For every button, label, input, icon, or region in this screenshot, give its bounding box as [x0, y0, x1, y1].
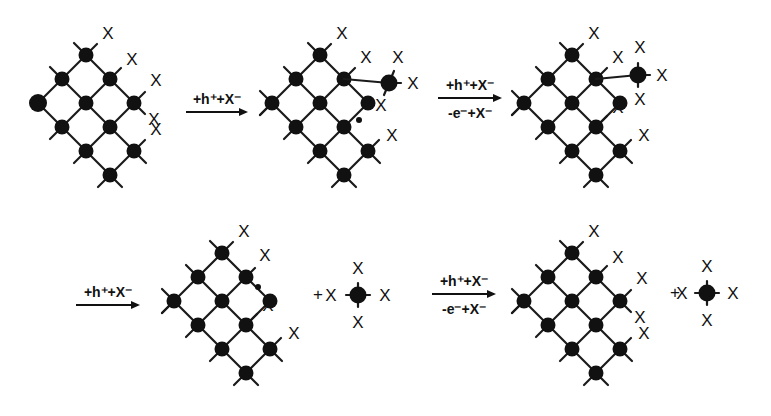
atom-node: [589, 366, 604, 381]
x-substituent-label: X: [288, 324, 299, 343]
x-substituent-label: X: [701, 311, 712, 330]
x-substituent-label: X: [150, 71, 161, 90]
stage-1-lattice: XXXXX: [29, 24, 162, 187]
x-substituent-label: X: [336, 24, 347, 43]
atom-node: [517, 96, 532, 111]
atom-node: [167, 294, 182, 309]
atom-node: [517, 294, 532, 309]
atom-node: [613, 144, 628, 159]
atom-node: [350, 287, 367, 304]
x-substituent-label: X: [126, 50, 137, 69]
x-substituent-label: X: [386, 126, 397, 145]
atom-node: [613, 342, 628, 357]
atom-node: [289, 72, 304, 87]
atom-node: [289, 120, 304, 135]
atom-node: [589, 318, 604, 333]
atom-node: [541, 318, 556, 333]
x-substituent-label: X: [636, 269, 647, 288]
atom-node: [55, 72, 70, 87]
x-substituent-label: X: [701, 257, 712, 276]
stage-5-lattice: XXXXX: [512, 222, 650, 385]
atom-node: [541, 270, 556, 285]
atom-node: [127, 144, 142, 159]
atom-node: [215, 294, 230, 309]
x-substituent-label: X: [150, 120, 161, 139]
atom-node: [79, 96, 94, 111]
atom-node: [239, 366, 254, 381]
atom-node: [191, 270, 206, 285]
radical-dot-icon: [255, 284, 261, 290]
atom-node: [79, 48, 94, 63]
x-substituent-label: X: [259, 246, 270, 265]
x-substituent-label: X: [102, 24, 113, 43]
atom-node: [613, 96, 628, 111]
atom-node: [103, 168, 118, 183]
atom-node: [313, 48, 328, 63]
atom-node: [565, 246, 580, 261]
arrow-2-bottom-label: -e⁻+X⁻: [448, 105, 492, 121]
atom-node: [55, 120, 70, 135]
reaction-diagram-canvas: XXXXX+h⁺+X⁻XXXXXX+h⁺+X⁻-e⁻+X⁻XXXXXXX+h⁺+…: [0, 0, 771, 416]
atom-node: [699, 285, 716, 302]
atom-node: [381, 75, 398, 92]
atom-node: [103, 120, 118, 135]
x-substituent-label: X: [379, 286, 390, 305]
atom-node: [265, 96, 280, 111]
arrow-2: +h⁺+X⁻-e⁻+X⁻: [438, 77, 502, 121]
stage-4-mx4-product: XXXX: [325, 259, 390, 332]
atom-node: [215, 342, 230, 357]
x-substituent-label: X: [407, 74, 418, 93]
x-substituent-label: X: [638, 126, 649, 145]
atom-node: [613, 294, 628, 309]
atom-node: [337, 168, 352, 183]
atom-node: [565, 48, 580, 63]
arrow-4: +h⁺+X⁻-e⁻+X⁻: [432, 273, 496, 317]
x-substituent-label: X: [634, 90, 645, 109]
x-substituent-label: X: [352, 259, 363, 278]
x-substituent-label: X: [238, 222, 249, 241]
x-substituent-label: X: [352, 313, 363, 332]
atom-node: [541, 120, 556, 135]
stage-5-mx4-product: XXXX: [676, 257, 738, 330]
plus-sign: +: [313, 285, 323, 304]
stage-4-lattice: XXXX: [162, 222, 300, 385]
atom-node: [29, 94, 47, 112]
arrow-3-top-label: +h⁺+X⁻: [84, 284, 132, 300]
atom-node: [239, 318, 254, 333]
atom-node: [313, 144, 328, 159]
atom-node: [541, 72, 556, 87]
x-substituent-label: X: [612, 248, 623, 267]
atom-node: [215, 246, 230, 261]
x-substituent-label: X: [656, 66, 667, 85]
stage-2-lattice: XXXXXX: [260, 24, 419, 187]
arrow-4-bottom-label: -e⁻+X⁻: [442, 301, 486, 317]
atom-node: [127, 96, 142, 111]
arrow-4-top-label: +h⁺+X⁻: [440, 273, 488, 289]
x-substituent-label: X: [612, 48, 623, 67]
x-substituent-label: X: [727, 284, 738, 303]
atom-node: [103, 72, 118, 87]
atom-node: [191, 318, 206, 333]
x-substituent-label: X: [392, 48, 403, 67]
atom-node: [361, 144, 376, 159]
atom-node: [239, 270, 254, 285]
arrow-3: +h⁺+X⁻: [76, 284, 140, 309]
atom-node: [79, 144, 94, 159]
atom-node: [565, 96, 580, 111]
atom-node: [565, 144, 580, 159]
arrow-2-top-label: +h⁺+X⁻: [446, 77, 494, 93]
x-substituent-label: X: [638, 324, 649, 343]
atom-node: [263, 294, 278, 309]
atom-node: [263, 342, 278, 357]
atom-node: [589, 120, 604, 135]
x-substituent-label: X: [588, 222, 599, 241]
atom-node: [565, 342, 580, 357]
arrow-1: +h⁺+X⁻: [186, 91, 248, 116]
x-substituent-label: X: [588, 24, 599, 43]
stage-3-lattice: XXXXXXX: [512, 24, 668, 187]
atom-node: [313, 96, 328, 111]
x-substituent-label: X: [325, 286, 336, 305]
x-substituent-label: X: [634, 38, 645, 57]
reaction-scheme: XXXXX+h⁺+X⁻XXXXXX+h⁺+X⁻-e⁻+X⁻XXXXXXX+h⁺+…: [0, 0, 771, 416]
x-substituent-label: X: [375, 96, 386, 115]
